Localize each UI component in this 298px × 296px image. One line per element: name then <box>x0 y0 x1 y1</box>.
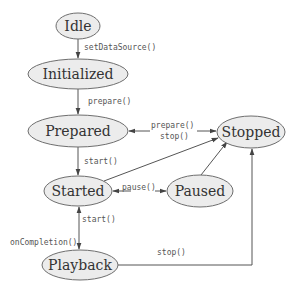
edge-label-stop-2: stop() <box>157 248 186 257</box>
state-initialized: Initialized <box>28 59 128 89</box>
edge-label-stop: stop() <box>160 132 189 141</box>
state-label-playback: Playback <box>48 257 112 273</box>
edge-idle-initialized: setDataSource() <box>78 39 156 58</box>
state-stopped: Stopped <box>217 116 285 148</box>
edge-label-oncompletion: onCompletion() <box>10 238 77 247</box>
edge-label-setdatasource: setDataSource() <box>84 43 156 52</box>
edge-prepared-started: start() <box>78 147 118 175</box>
state-label-prepared: Prepared <box>45 123 111 139</box>
state-label-idle: Idle <box>64 18 91 34</box>
edge-label-prepare: prepare() <box>88 97 131 106</box>
state-playback: Playback <box>42 250 118 280</box>
edge-label-start: start() <box>84 157 118 166</box>
edge-started-playback: start() onCompletion() <box>10 207 116 249</box>
edge-label-prepare-2: prepare() <box>151 121 194 130</box>
state-prepared: Prepared <box>28 115 128 147</box>
edge-prepared-stopped: stop() <box>160 131 216 141</box>
state-idle: Idle <box>56 13 100 39</box>
edge-stopped-prepared: prepare() <box>129 121 194 131</box>
state-label-started: Started <box>51 183 104 199</box>
state-label-initialized: Initialized <box>42 66 113 82</box>
edge-paused-stopped <box>201 142 227 175</box>
edge-initialized-prepared: prepare() <box>78 89 131 114</box>
state-label-stopped: Stopped <box>222 124 281 140</box>
edge-playback-stopped: stop() <box>118 149 252 265</box>
state-label-paused: Paused <box>175 183 226 199</box>
state-diagram: setDataSource() prepare() prepare() stop… <box>0 0 298 296</box>
state-paused: Paused <box>167 175 233 207</box>
edge-label-start-2: start() <box>82 215 116 224</box>
edge-label-pause: pause() <box>122 183 156 192</box>
edge-started-paused: pause() <box>113 183 166 192</box>
state-started: Started <box>44 176 112 206</box>
